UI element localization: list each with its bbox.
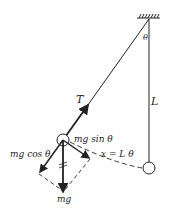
mg-sin-label: mg sin θ [74,134,113,144]
pendulum-diagram: θ L T mg sin θ mg cos θ x = L θ mg [0,0,173,215]
tension-label: T [76,93,85,106]
weight-label: mg [57,194,72,204]
length-label: L [150,95,158,108]
ceiling-support [137,14,160,18]
arc-label: x = L θ [101,149,134,159]
mg-cos-label: mg cos θ [10,149,51,159]
theta-label: θ [143,33,148,42]
equilibrium-bob [143,162,155,174]
